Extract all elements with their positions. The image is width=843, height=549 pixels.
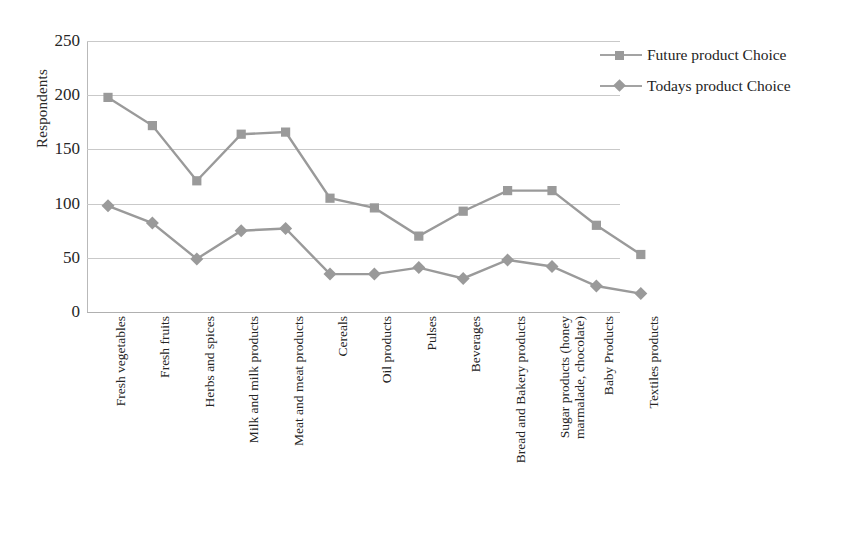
y-axis-tick-label: 250	[34, 32, 80, 49]
x-axis-labels: Fresh vegetablesFresh fruitsHerbs and sp…	[87, 314, 620, 544]
data-point-marker	[459, 207, 468, 216]
y-axis-tick-label: 100	[34, 195, 80, 212]
x-axis-tick-label: Sugar products (honeymarmalade, chocolat…	[557, 316, 587, 526]
legend-diamond-marker-icon	[600, 79, 642, 93]
legend-item: Future product Choice	[600, 42, 840, 68]
x-axis-baseline	[87, 312, 620, 313]
data-point-marker	[325, 194, 334, 203]
legend-label: Todays product Choice	[647, 77, 791, 95]
data-point-marker	[414, 232, 423, 241]
legend-square-marker-icon	[600, 48, 642, 62]
y-axis-ticks: 250200150100500	[22, 0, 80, 549]
x-axis-tick-label: Herbs and spices	[202, 316, 217, 526]
x-axis-tick-label: Meat and meat products	[291, 316, 306, 526]
x-axis-tick-label: Cereals	[335, 316, 350, 526]
data-point-marker	[545, 260, 558, 273]
x-axis-tick-label: Fresh fruits	[157, 316, 172, 526]
data-point-marker	[370, 203, 379, 212]
data-point-marker	[636, 250, 645, 259]
data-point-marker	[590, 279, 603, 292]
data-point-marker	[103, 93, 112, 102]
legend-label: Future product Choice	[647, 46, 786, 64]
y-axis-tick-label: 150	[34, 140, 80, 157]
y-axis-tick-label: 200	[34, 86, 80, 103]
x-axis-tick-label: Textiles products	[646, 316, 661, 526]
series-2	[101, 199, 647, 300]
data-point-marker	[503, 186, 512, 195]
data-point-marker	[148, 121, 157, 130]
data-point-marker	[501, 253, 514, 266]
y-axis-tick-label: 50	[34, 249, 80, 266]
x-axis-tick-label: Pulses	[424, 316, 439, 526]
x-axis-tick-label: Beverages	[468, 316, 483, 526]
chart-legend: Future product ChoiceTodays product Choi…	[600, 42, 840, 104]
plot-area	[87, 41, 620, 312]
data-point-marker	[235, 224, 248, 237]
y-axis-tick-label: 0	[34, 303, 80, 320]
x-axis-tick-label: Bread and Bakery products	[513, 316, 528, 526]
data-point-marker	[412, 261, 425, 274]
data-point-marker	[592, 221, 601, 230]
x-axis-tick-label: Oil products	[379, 316, 394, 526]
data-point-marker	[457, 272, 470, 285]
data-point-marker	[547, 186, 556, 195]
series-1	[103, 93, 645, 259]
data-point-marker	[368, 268, 381, 281]
x-axis-tick-label: Fresh vegetables	[113, 316, 128, 526]
legend-item: Todays product Choice	[600, 73, 840, 99]
data-point-marker	[281, 128, 290, 137]
series-line	[108, 97, 641, 254]
series-layer	[87, 41, 620, 312]
data-point-marker	[634, 287, 647, 300]
x-axis-tick-label: Milk and milk products	[246, 316, 261, 526]
data-point-marker	[237, 130, 246, 139]
data-point-marker	[101, 199, 114, 212]
x-axis-tick-label: Baby Products	[601, 316, 616, 526]
data-point-marker	[192, 176, 201, 185]
line-chart: Respondents 250200150100500 Fresh vegeta…	[0, 0, 843, 549]
